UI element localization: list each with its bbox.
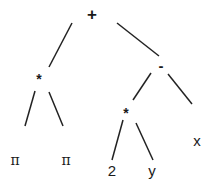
node-x: x [193,133,201,148]
node-multiply-left: * [36,72,41,86]
node-y: y [148,163,156,178]
edge-sub-mul2 [133,73,151,100]
node-pi-left: π [10,153,19,167]
expression-tree-diagram: + * - π π * x 2 y [0,0,211,189]
edge-sub-x [168,74,192,104]
edge-mul2-y [136,123,153,160]
edge-mul1-pi1 [25,91,35,126]
edge-mul1-pi2 [49,92,63,126]
edge-mul2-two [112,120,123,160]
edge-root-mul1 [49,23,72,67]
node-two: 2 [108,163,116,178]
node-root-plus: + [87,6,97,23]
node-pi-right: π [61,153,70,167]
node-subtract: - [159,58,164,73]
edge-root-sub [117,23,159,56]
node-multiply-right: * [123,106,128,120]
tree-edges [0,0,211,189]
